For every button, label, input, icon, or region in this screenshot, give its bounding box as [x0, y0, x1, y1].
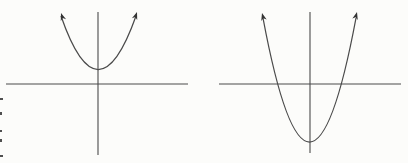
figure-canvas — [0, 0, 408, 163]
page-edge-text-fragment — [0, 130, 2, 132]
parabola-vertex-above-x-axis — [6, 11, 188, 155]
parabola-vertex-below-x-axis — [219, 11, 401, 153]
page-edge-text-fragment — [0, 112, 2, 115]
page-edge-text-fragment — [0, 155, 3, 157]
figure-svg — [0, 0, 408, 163]
arrowhead-icon — [132, 11, 140, 20]
page-edge-text-fragment — [0, 98, 3, 100]
page-edge-text-fragment — [0, 139, 2, 142]
